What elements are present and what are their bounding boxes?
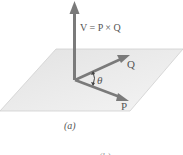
vector-v-label: V = P × Q <box>80 22 122 33</box>
angle-theta-label: θ <box>97 74 103 86</box>
figure-caption: (a) <box>64 120 76 132</box>
vector-v-arrowhead <box>70 1 80 14</box>
cross-product-diagram: V = P × Q Q P θ (a) (b) <box>0 0 183 155</box>
plane <box>0 49 183 111</box>
cropped-next-caption: (b) <box>99 151 111 155</box>
vector-p-label: P <box>121 100 127 112</box>
vector-q-label: Q <box>127 58 135 70</box>
